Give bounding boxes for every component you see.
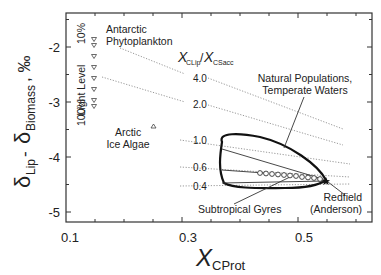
iso-label-0.6: 0.6 <box>193 162 207 173</box>
light-level-10: 10% <box>75 23 87 44</box>
y-tick-label: -5 <box>48 205 60 220</box>
redfield-label-2: (Anderson) <box>310 203 362 215</box>
arctic-label-1: Arctic <box>115 126 141 138</box>
iso-line-lower-left <box>102 77 185 102</box>
antarctic-label-2: Phytoplankton <box>106 35 173 47</box>
y-tick-label: -2 <box>48 40 60 55</box>
natural-leader <box>284 97 304 148</box>
chart: -2 -3 -4 -5 0.1 0.3 0.5 X CProt δ Lip - … <box>0 0 381 275</box>
y-tick-label: -3 <box>48 95 60 110</box>
svg-text:δ: δ <box>10 132 35 144</box>
x-tick-label: 0.1 <box>61 230 79 245</box>
svg-text:CProt: CProt <box>212 258 246 273</box>
natural-populations-label-1: Natural Populations, <box>258 72 353 84</box>
svg-text:CLip: CLip <box>186 59 201 67</box>
x-tick-label: 0.3 <box>179 230 197 245</box>
open-circle-series <box>258 171 323 182</box>
iso-line-upper-left <box>120 48 185 74</box>
light-level-100: 100% <box>75 99 87 126</box>
svg-text:100%: 100% <box>75 99 87 126</box>
iso-label-0.4: 0.4 <box>193 181 207 192</box>
svg-text:CSacc: CSacc <box>213 59 234 66</box>
x-tick-label: 0.5 <box>295 230 313 245</box>
iso-label-1.0: 1.0 <box>193 135 207 146</box>
natural-populations-label-2: Temperate Waters <box>262 84 347 96</box>
redfield-label-1: Redfield <box>323 191 362 203</box>
iso-label-4.0: 4.0 <box>193 73 207 84</box>
x-axis-label: X CProt <box>195 244 246 273</box>
iso-header: X CLip / X CSacc <box>177 49 234 67</box>
svg-text:, ‰: , ‰ <box>15 56 34 82</box>
subtropical-gyres-label: Subtropical Gyres <box>198 203 281 215</box>
iso-line-2.0 <box>208 105 343 145</box>
subtropical-leader <box>234 177 290 204</box>
svg-text:10%: 10% <box>75 23 87 44</box>
iso-label-2.0: 2.0 <box>193 99 207 110</box>
arctic-ice-algae-marker <box>151 124 156 128</box>
svg-text:Biomass: Biomass <box>24 85 38 131</box>
svg-text:X: X <box>195 244 213 271</box>
svg-text:δ: δ <box>10 176 35 188</box>
y-tick-label: -4 <box>48 150 60 165</box>
antarctic-phytoplankton-markers <box>92 38 97 109</box>
natural-populations-region <box>220 134 326 188</box>
arctic-label-2: Ice Algae <box>106 138 149 150</box>
y-axis-label: δ Lip - δ Biomass , ‰ <box>10 56 38 188</box>
antarctic-label-1: Antarctic <box>106 23 147 35</box>
svg-text:Lip: Lip <box>24 159 38 175</box>
svg-text:-: - <box>15 151 34 157</box>
